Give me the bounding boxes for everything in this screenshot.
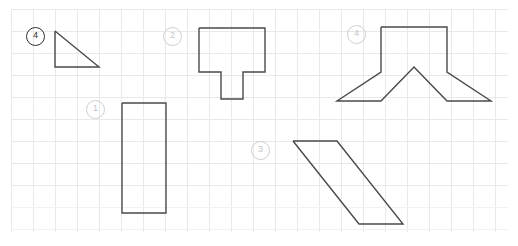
notched-trapezoid bbox=[337, 27, 491, 101]
worksheet-canvas: 42134 bbox=[0, 0, 518, 246]
tee-polygon bbox=[199, 28, 265, 99]
tall-rectangle bbox=[122, 103, 166, 213]
parallelogram bbox=[293, 141, 403, 224]
shapes-layer bbox=[0, 0, 518, 246]
right-triangle bbox=[55, 31, 99, 67]
